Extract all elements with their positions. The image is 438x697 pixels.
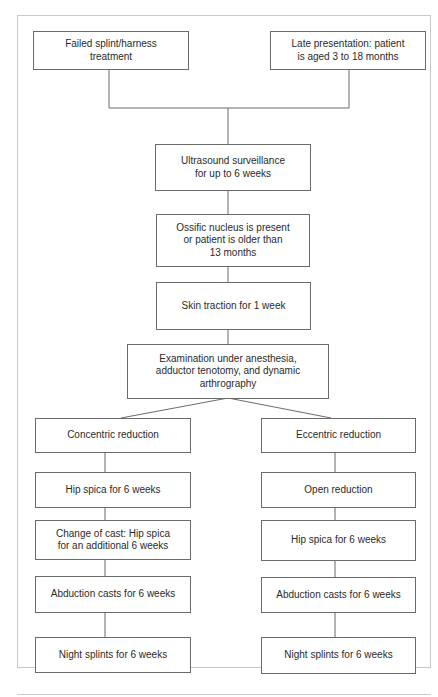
right-step-night-splints: Night splints for 6 weeks [261,637,416,674]
merge-connector [109,69,349,108]
bottom-divider [17,694,431,695]
right-step-hip-spica: Hip spica for 6 weeks [261,520,416,561]
step-box-examination: Examination under anesthesia, adductor t… [127,344,329,399]
right-step-open-reduction: Open reduction [261,472,416,508]
left-step-abduction-casts: Abduction casts for 6 weeks [35,576,191,613]
step-box-ultrasound: Ultrasound surveillance for up to 6 week… [155,144,311,191]
left-step-hip-spica: Hip spica for 6 weeks [35,472,191,508]
branch-box-eccentric-reduction: Eccentric reduction [261,418,416,453]
left-step-night-splints: Night splints for 6 weeks [35,637,191,673]
step-box-skin-traction: Skin traction for 1 week [156,282,311,330]
step-box-ossific-nucleus: Ossific nucleus is present or patient is… [156,214,310,267]
start-box-late-presentation: Late presentation: patient is aged 3 to … [270,31,426,70]
start-box-failed-splint: Failed splint/harness treatment [33,31,189,70]
branch-box-concentric-reduction: Concentric reduction [35,418,191,453]
right-step-abduction-casts: Abduction casts for 6 weeks [261,577,416,613]
left-step-change-of-cast: Change of cast: Hip spica for an additio… [35,520,191,560]
split-left-line [121,398,228,418]
split-right-line [228,398,331,418]
